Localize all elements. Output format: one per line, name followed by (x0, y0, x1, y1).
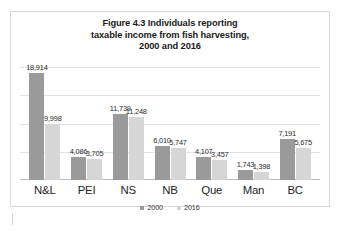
bar-ns-2000[interactable]: 11,739 (113, 114, 128, 180)
bar-label-man-2016: 1,398 (253, 162, 271, 171)
bar-nl-2000[interactable]: 18,914 (29, 73, 44, 180)
bar-que-2016[interactable]: 3,457 (212, 160, 227, 180)
bar-nb-2000[interactable]: 6,010 (155, 146, 170, 180)
bar-group-nb: 6,010 5,747 (149, 67, 191, 180)
legend-swatch-2000-icon (140, 206, 144, 210)
bar-wrap-man-2000: 1,743 (238, 67, 253, 180)
legend-entry-2016[interactable]: 2016 (177, 203, 200, 212)
chart-title-line-3: 2000 and 2016 (11, 41, 329, 53)
bar-pei-2016[interactable]: 3,705 (87, 159, 102, 180)
bar-bc-2016[interactable]: 5,675 (296, 148, 311, 180)
bar-nb-2016[interactable]: 5,747 (171, 148, 186, 180)
bar-wrap-nb-2000: 6,010 (155, 67, 170, 180)
bar-wrap-bc-2016: 5,675 (296, 67, 311, 180)
bar-wrap-man-2016: 1,398 (254, 67, 269, 180)
bar-man-2000[interactable]: 1,743 (238, 170, 253, 180)
chart-title-line-1: Figure 4.3 Individuals reporting (11, 18, 329, 30)
bar-label-nb-2016: 5,747 (169, 138, 187, 147)
category-label-nl: N&L (24, 182, 66, 200)
bar-wrap-que-2016: 3,457 (212, 67, 227, 180)
bar-label-man-2000: 1,743 (237, 160, 255, 169)
legend-label-2016: 2016 (184, 203, 200, 212)
bar-label-pei-2016: 3,705 (86, 149, 104, 158)
bar-wrap-ns-2016: 11,248 (129, 67, 144, 180)
figure-frame: Figure 4.3 Individuals reporting taxable… (10, 11, 330, 207)
bar-group-bc: 7,191 5,675 (274, 67, 316, 180)
chart-title-line-2: taxable income from fish harvesting, (11, 30, 329, 42)
bar-wrap-nl-2016: 9,998 (45, 67, 60, 180)
bars-layer: 18,914 9,998 4,086 3,705 (20, 67, 320, 180)
bar-wrap-pei-2000: 4,086 (71, 67, 86, 180)
bar-wrap-nl-2000: 18,914 (29, 67, 44, 180)
plot-area: 18,914 9,998 4,086 3,705 (20, 67, 320, 180)
bar-group-man: 1,743 1,398 (233, 67, 275, 180)
bar-que-2000[interactable]: 4,107 (196, 157, 211, 180)
bar-man-2016[interactable]: 1,398 (254, 172, 269, 180)
bar-label-nb-2000: 6,010 (153, 136, 171, 145)
bar-wrap-pei-2016: 3,705 (87, 67, 102, 180)
category-label-man: Man (233, 182, 275, 200)
bar-wrap-que-2000: 4,107 (196, 67, 211, 180)
bar-group-nl: 18,914 9,998 (24, 67, 66, 180)
bar-wrap-ns-2000: 11,739 (113, 67, 128, 180)
category-label-que: Que (191, 182, 233, 200)
bar-label-que-2016: 3,457 (211, 150, 229, 159)
bar-nl-2016[interactable]: 9,998 (45, 124, 60, 181)
bar-label-que-2000: 4,107 (195, 147, 213, 156)
bar-label-ns-2016: 11,248 (126, 107, 147, 116)
bar-ns-2016[interactable]: 11,248 (129, 117, 144, 181)
bar-pei-2000[interactable]: 4,086 (71, 157, 86, 180)
bar-label-nl-2016: 9,998 (44, 114, 62, 123)
bar-bc-2000[interactable]: 7,191 (280, 139, 295, 180)
legend-swatch-2016-icon (177, 206, 181, 210)
category-label-bc: BC (274, 182, 316, 200)
bar-label-bc-2016: 5,675 (294, 138, 312, 147)
category-label-pei: PEI (66, 182, 108, 200)
category-axis: N&L PEI NS NB Que Man BC (20, 182, 320, 200)
category-label-ns: NS (107, 182, 149, 200)
bar-wrap-bc-2000: 7,191 (280, 67, 295, 180)
bar-label-nl-2000: 18,914 (26, 63, 47, 72)
page-margin-rule (12, 214, 13, 225)
legend-label-2000: 2000 (147, 203, 163, 212)
bar-label-bc-2000: 7,191 (278, 129, 296, 138)
bar-group-pei: 4,086 3,705 (66, 67, 108, 180)
bar-wrap-nb-2016: 5,747 (171, 67, 186, 180)
chart-title: Figure 4.3 Individuals reporting taxable… (11, 18, 329, 53)
bar-label-pei-2000: 4,086 (70, 147, 88, 156)
bar-group-que: 4,107 3,457 (191, 67, 233, 180)
legend-entry-2000[interactable]: 2000 (140, 203, 163, 212)
bar-group-ns: 11,739 11,248 (107, 67, 149, 180)
chart-legend: 2000 2016 (11, 203, 329, 212)
category-label-nb: NB (149, 182, 191, 200)
